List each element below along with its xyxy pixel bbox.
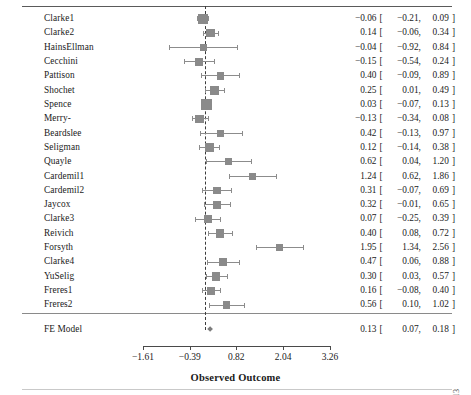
forest-plot-figure: Clarke1−0.06[−0.21,0.09]Clarke20.14[−0.0…: [0, 0, 471, 395]
study-label: Spence: [44, 99, 71, 109]
ci-cap-upper: [220, 288, 221, 293]
study-label: Clarke3: [44, 213, 74, 223]
study-estimate-text: 1.24[0.62,1.86]: [346, 171, 455, 181]
ci-cap-lower: [206, 159, 207, 164]
ci-cap-upper: [224, 88, 225, 93]
summary-label: FE Model: [44, 324, 82, 334]
x-axis-tick: [330, 346, 331, 350]
ci-cap-lower: [199, 145, 200, 150]
study-estimate-text: 0.47[0.06,0.88]: [346, 256, 455, 266]
x-axis-tick: [190, 346, 191, 350]
effect-size-marker: [219, 258, 227, 266]
ci-cap-lower: [202, 288, 203, 293]
study-label: Quayle: [44, 156, 71, 166]
study-estimate-text: 0.40[0.08,0.72]: [346, 228, 455, 238]
ci-cap-upper: [239, 73, 240, 78]
study-label: HainsEllman: [44, 42, 94, 52]
effect-size-marker: [276, 244, 283, 251]
x-axis-tick-label: −0.39: [165, 352, 215, 362]
ci-cap-lower: [208, 231, 209, 236]
ci-cap-upper: [218, 31, 219, 36]
effect-size-marker: [225, 158, 232, 165]
effect-size-marker: [217, 72, 224, 79]
effect-size-marker: [213, 201, 221, 209]
effect-size-marker: [223, 301, 231, 309]
study-label: Clarke4: [44, 256, 74, 266]
ci-cap-lower: [203, 31, 204, 36]
summary-diamond: [207, 326, 213, 332]
ci-cap-lower: [184, 59, 185, 64]
ci-cap-lower: [200, 131, 201, 136]
ci-cap-lower: [192, 116, 193, 121]
study-label: Shochet: [44, 85, 75, 95]
study-estimate-text: 0.14[−0.06,0.34]: [346, 27, 455, 37]
study-estimate-text: 0.31[−0.07,0.69]: [346, 185, 455, 195]
ci-cap-upper: [239, 260, 240, 265]
study-estimate-text: 0.07[−0.25,0.39]: [346, 213, 455, 223]
study-estimate-text: 0.42[−0.13,0.97]: [346, 128, 455, 138]
study-estimate-text: 0.32[−0.01,0.65]: [346, 199, 455, 209]
ci-cap-lower: [206, 274, 207, 279]
study-estimate-text: 0.40[−0.09,0.89]: [346, 70, 455, 80]
study-estimate-text: −0.04[−0.92,0.84]: [346, 42, 455, 52]
x-axis-tick-label: 2.04: [258, 352, 308, 362]
x-axis-tick: [143, 346, 144, 350]
study-label: Seligman: [44, 142, 80, 152]
study-label: Forsyth: [44, 242, 73, 252]
ci-cap-upper: [227, 274, 228, 279]
ci-cap-lower: [205, 88, 206, 93]
study-label: Freres2: [44, 299, 73, 309]
study-estimate-text: −0.15[−0.54,0.24]: [346, 56, 455, 66]
summary-estimate-text: 0.13[0.07,0.18]: [346, 324, 455, 334]
ci-cap-lower: [195, 217, 196, 222]
ci-cap-lower: [202, 188, 203, 193]
null-effect-reference-line: [205, 6, 206, 330]
study-label: Cardemil1: [44, 171, 84, 181]
copyright-credit: © Cengage Learning 2013: [452, 389, 461, 395]
study-label: Beardslee: [44, 128, 82, 138]
ci-cap-upper: [220, 217, 221, 222]
x-axis-tick: [236, 346, 237, 350]
ci-cap-lower: [229, 174, 230, 179]
effect-size-marker: [201, 99, 212, 110]
study-label: Merry-: [44, 113, 71, 123]
ci-cap-upper: [251, 159, 252, 164]
study-label: Cecchini: [44, 56, 78, 66]
ci-cap-upper: [244, 303, 245, 308]
ci-cap-upper: [208, 16, 209, 21]
effect-size-marker: [198, 14, 208, 24]
study-estimate-text: 1.95[1.34,2.56]: [346, 242, 455, 252]
study-label: Pattison: [44, 70, 75, 80]
ci-cap-lower: [209, 303, 210, 308]
ci-cap-upper: [208, 116, 209, 121]
ci-cap-lower: [207, 260, 208, 265]
effect-size-marker: [207, 287, 216, 296]
effect-size-marker: [213, 187, 221, 195]
ci-cap-lower: [204, 202, 205, 207]
x-axis-title: Observed Outcome: [0, 372, 471, 383]
study-estimate-text: 0.30[0.03,0.57]: [346, 271, 455, 281]
effect-size-marker: [212, 272, 220, 280]
ci-cap-lower: [169, 45, 170, 50]
ci-cap-upper: [214, 59, 215, 64]
ci-cap-upper: [230, 202, 231, 207]
ci-cap-upper: [219, 145, 220, 150]
top-rule: [22, 6, 452, 7]
study-estimate-text: 0.12[−0.14,0.38]: [346, 142, 455, 152]
x-axis-tick: [283, 346, 284, 350]
effect-size-marker: [217, 130, 224, 137]
effect-size-marker: [205, 143, 214, 152]
effect-size-marker: [195, 58, 203, 66]
study-label: Reivich: [44, 228, 74, 238]
study-label: Jaycox: [44, 199, 70, 209]
ci-cap-upper: [303, 245, 304, 250]
ci-cap-upper: [237, 45, 238, 50]
effect-size-marker: [249, 173, 256, 180]
ci-cap-upper: [276, 174, 277, 179]
study-estimate-text: 0.25[0.01,0.49]: [346, 85, 455, 95]
study-estimate-text: 0.03[−0.07,0.13]: [346, 99, 455, 109]
effect-size-marker: [200, 44, 207, 51]
study-label: Clarke1: [44, 13, 74, 23]
summary-separator-rule: [22, 313, 452, 314]
effect-size-marker: [216, 229, 224, 237]
